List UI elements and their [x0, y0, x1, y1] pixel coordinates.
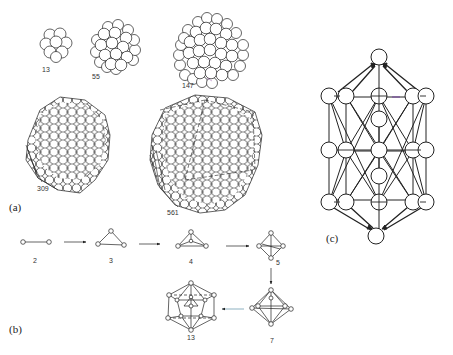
step-label-2: 2 [33, 257, 37, 264]
step-label-4: 4 [189, 258, 193, 265]
cluster-5-diagram [257, 231, 286, 261]
cluster-3-diagram [96, 229, 127, 248]
step-label-3: 3 [109, 257, 113, 264]
panel-label-b: (b) [9, 324, 22, 335]
cluster-size-label-309: 309 [37, 185, 49, 192]
cluster-size-label-13: 13 [42, 66, 50, 73]
figure-graphics [0, 0, 453, 355]
network-diagram [321, 49, 434, 244]
cluster-13 [40, 28, 72, 63]
cluster-13-diagram [166, 281, 217, 333]
cluster-147 [174, 13, 249, 89]
growth-sequence [21, 229, 294, 333]
cluster-size-label-561: 561 [167, 209, 179, 216]
step-label-5: 5 [276, 259, 280, 266]
cluster-size-label-55: 55 [92, 73, 100, 80]
step-label-13: 13 [187, 334, 195, 341]
cluster-7-diagram [250, 288, 294, 327]
cluster-561 [150, 95, 262, 213]
step-label-7: 7 [270, 337, 274, 344]
cluster-size-label-147: 147 [182, 82, 194, 89]
panel-label-a: (a) [9, 202, 21, 213]
cluster-309 [26, 97, 110, 193]
cluster-2-diagram [21, 240, 52, 245]
cluster-4-diagram [176, 230, 209, 249]
figure: 13 55 147 309 561 (a) 2 3 4 5 7 13 (b) (… [0, 0, 453, 355]
panel-label-c: (c) [326, 233, 338, 244]
cluster-55 [91, 20, 141, 75]
